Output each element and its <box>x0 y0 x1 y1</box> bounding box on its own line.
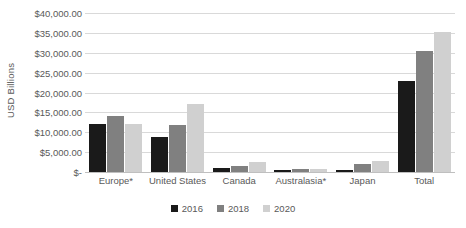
legend-label: 2018 <box>228 203 249 214</box>
bar-2018-japan[interactable] <box>354 164 371 172</box>
legend-swatch-icon <box>171 205 178 212</box>
x-axis-tick-label: Europe* <box>85 175 147 193</box>
bar-2016-europe[interactable] <box>89 124 106 172</box>
bar-2020-europe[interactable] <box>125 124 142 172</box>
bar-2020-canada[interactable] <box>249 162 266 172</box>
bar-group <box>393 13 455 172</box>
bar-2018-europe[interactable] <box>107 116 124 172</box>
plot-area <box>85 13 455 172</box>
y-axis-tick-label: $40,000.00 <box>4 8 82 19</box>
x-axis-tick-label: Japan <box>332 175 394 193</box>
legend-item-2016[interactable]: 2016 <box>171 203 203 214</box>
y-axis-tick-label: $30,000.00 <box>4 47 82 58</box>
bar-group <box>270 13 332 172</box>
x-axis-line <box>85 172 455 173</box>
bar-chart: USD Billions $-$5,000.00$10,000.00$15,00… <box>0 0 466 228</box>
bar-2018-total[interactable] <box>416 51 433 172</box>
bar-2020-total[interactable] <box>434 32 451 172</box>
bar-2020-japan[interactable] <box>372 161 389 172</box>
bar-group <box>208 13 270 172</box>
x-axis-tick-label: Australasia* <box>270 175 332 193</box>
legend-label: 2020 <box>274 203 295 214</box>
bar-2018-unitedstates[interactable] <box>169 125 186 172</box>
legend-item-2018[interactable]: 2018 <box>217 203 249 214</box>
bar-2020-unitedstates[interactable] <box>187 104 204 172</box>
y-axis-tick-labels: $-$5,000.00$10,000.00$15,000.00$20,000.0… <box>0 13 82 172</box>
y-axis-tick-label: $15,000.00 <box>4 107 82 118</box>
x-axis-tick-labels: Europe*United StatesCanadaAustralasia*Ja… <box>85 175 455 193</box>
legend-item-2020[interactable]: 2020 <box>263 203 295 214</box>
y-axis-tick-label: $35,000.00 <box>4 27 82 38</box>
y-axis-tick-label: $25,000.00 <box>4 67 82 78</box>
bar-2016-total[interactable] <box>398 81 415 172</box>
legend-label: 2016 <box>182 203 203 214</box>
legend-swatch-icon <box>263 205 270 212</box>
bar-group <box>85 13 147 172</box>
x-axis-tick-label: Total <box>393 175 455 193</box>
y-axis-tick-label: $20,000.00 <box>4 87 82 98</box>
bar-2016-unitedstates[interactable] <box>151 137 168 172</box>
x-axis-tick-label: Canada <box>208 175 270 193</box>
legend-swatch-icon <box>217 205 224 212</box>
y-axis-tick-label: $5,000.00 <box>4 147 82 158</box>
legend: 201620182020 <box>0 203 466 214</box>
x-axis-tick-label: United States <box>147 175 209 193</box>
bar-group <box>147 13 209 172</box>
y-axis-tick-label: $- <box>4 167 82 178</box>
bar-group <box>332 13 394 172</box>
bar-groups <box>85 13 455 172</box>
y-axis-tick-label: $10,000.00 <box>4 127 82 138</box>
